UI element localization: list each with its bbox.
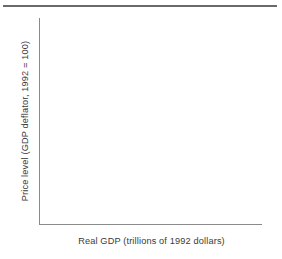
x-axis-label: Real GDP (trillions of 1992 dollars) xyxy=(41,236,262,246)
y-axis-line xyxy=(39,18,40,225)
chart-figure: Price level (GDP deflator, 1992 = 100) R… xyxy=(0,0,282,259)
plot-area xyxy=(41,19,262,223)
y-axis-label: Price level (GDP deflator, 1992 = 100) xyxy=(20,41,30,202)
x-axis-line xyxy=(39,224,262,225)
